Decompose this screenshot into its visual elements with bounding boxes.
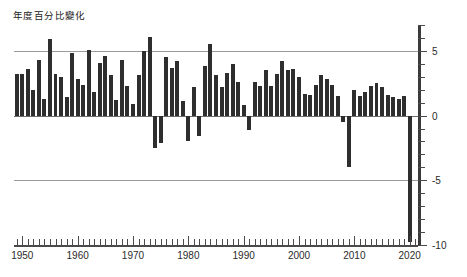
x-axis-tick: [321, 239, 322, 245]
gridline-0: [14, 116, 418, 117]
x-axis-tick: [404, 239, 405, 245]
x-axis-tick: [310, 239, 311, 245]
x-axis-tick: [216, 239, 217, 245]
x-axis-tick: [282, 239, 283, 245]
bar: [175, 61, 179, 115]
x-axis-tick: [105, 239, 106, 245]
y-axis-tick: [418, 180, 427, 181]
x-axis-tick: [299, 236, 300, 245]
x-axis-tick: [410, 236, 411, 245]
x-axis-tick: [349, 239, 350, 245]
bar: [397, 99, 401, 116]
x-axis-label: 1980: [177, 250, 199, 261]
bar: [153, 116, 157, 148]
bar: [37, 60, 41, 116]
bar: [314, 85, 318, 116]
x-axis-tick: [22, 236, 23, 245]
x-axis-tick: [127, 239, 128, 245]
bar: [275, 74, 279, 115]
bar: [380, 87, 384, 115]
x-axis-tick: [376, 239, 377, 245]
bar: [231, 64, 235, 116]
y-axis-tick: [418, 51, 427, 52]
y-axis-label: -10: [432, 240, 446, 251]
x-axis-tick: [56, 239, 57, 245]
x-axis-tick: [44, 239, 45, 245]
x-axis-tick: [255, 239, 256, 245]
x-axis-tick: [338, 239, 339, 245]
y-axis-tick: [418, 64, 425, 65]
bar: [225, 73, 229, 116]
bar: [352, 90, 356, 116]
x-axis-tick: [188, 236, 189, 245]
bar: [109, 75, 113, 115]
bar: [336, 96, 340, 115]
x-axis-label: 2010: [343, 250, 365, 261]
x-axis-tick: [399, 239, 400, 245]
bar: [20, 74, 24, 115]
x-axis-tick: [388, 239, 389, 245]
x-axis-tick: [72, 239, 73, 245]
x-axis-tick: [61, 239, 62, 245]
x-axis-tick: [94, 239, 95, 245]
bar: [325, 79, 329, 115]
y-axis-label: 5: [432, 45, 438, 56]
bar: [70, 53, 74, 115]
bar: [170, 68, 174, 116]
bar: [269, 86, 273, 116]
x-axis-tick: [327, 239, 328, 245]
x-axis-tick: [332, 239, 333, 245]
x-axis-tick: [89, 239, 90, 245]
x-axis-label: 1950: [11, 250, 33, 261]
bar: [253, 82, 257, 116]
bar: [258, 86, 262, 116]
x-axis-label: 1970: [122, 250, 144, 261]
y-axis-tick: [418, 193, 425, 194]
bar: [181, 101, 185, 115]
y-axis-tick: [418, 245, 427, 246]
bar: [186, 116, 190, 142]
bar: [264, 70, 268, 115]
y-axis-tick: [418, 219, 425, 220]
x-axis-tick: [78, 236, 79, 245]
x-axis-tick: [67, 239, 68, 245]
bar: [42, 99, 46, 116]
bar: [159, 116, 163, 143]
chart-container: 年度百分比變化 50-5-101950196019701980199020002…: [0, 0, 467, 277]
bar: [286, 70, 290, 115]
x-axis-tick: [194, 239, 195, 245]
x-axis-tick: [83, 239, 84, 245]
bar: [319, 75, 323, 115]
x-axis-tick: [415, 239, 416, 245]
y-axis-tick: [418, 38, 425, 39]
x-axis-tick: [249, 239, 250, 245]
y-axis-tick: [418, 90, 425, 91]
x-axis-tick: [166, 239, 167, 245]
x-axis-tick: [371, 239, 372, 245]
y-axis-tick: [418, 116, 427, 117]
y-axis-tick: [418, 25, 425, 26]
bar: [247, 116, 251, 130]
bar: [76, 79, 80, 115]
bar: [369, 86, 373, 116]
bar: [242, 105, 246, 115]
x-axis-tick: [271, 239, 272, 245]
x-axis-tick: [139, 239, 140, 245]
x-axis-tick: [116, 239, 117, 245]
x-axis-tick: [233, 239, 234, 245]
x-axis-tick: [393, 239, 394, 245]
bar: [103, 56, 107, 116]
y-axis-tick: [418, 167, 425, 168]
bar: [15, 74, 19, 115]
bar: [81, 85, 85, 116]
y-axis-label: 0: [432, 110, 438, 121]
y-axis-tick: [418, 77, 425, 78]
x-axis-tick: [183, 239, 184, 245]
bar: [65, 97, 69, 115]
x-axis-tick: [227, 239, 228, 245]
y-axis-tick: [418, 206, 425, 207]
x-axis-tick: [343, 239, 344, 245]
x-axis-tick: [382, 239, 383, 245]
bar: [280, 61, 284, 115]
y-axis-tick: [418, 129, 425, 130]
